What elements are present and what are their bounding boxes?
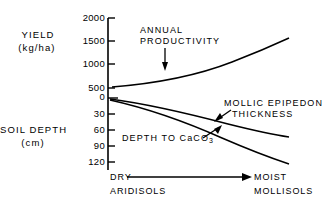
tick-label-yield-1500: 1500 — [64, 35, 105, 46]
tick-label-yield-1000: 1000 — [64, 58, 105, 69]
annotation-caco3-subscript: 3 — [209, 137, 214, 144]
annotation-mollic-epipedon-line1: MOLLIC EPIPEDON — [224, 98, 323, 109]
annotation-annual-productivity-line1: ANNUAL — [140, 25, 183, 36]
gradient-label-mollisols: MOLLISOLS — [254, 186, 313, 196]
tick-label-depth-0: 0 — [64, 91, 105, 102]
gradient-arrowhead — [242, 173, 252, 181]
tick-label-yield-2000: 2000 — [64, 12, 105, 23]
axis-title-yield: YIELD — [10, 29, 66, 40]
arrowhead-caco3 — [214, 125, 222, 134]
tick-label-depth-120: 120 — [64, 156, 105, 167]
annotation-caco3-text: DEPTH TO CaCO — [122, 133, 209, 143]
gradient-label-aridisols: ARIDISOLS — [110, 186, 166, 196]
annotation-depth-to-caco3: DEPTH TO CaCO3 — [122, 133, 214, 144]
annotation-mollic-epipedon-line2: THICKNESS — [232, 109, 293, 120]
axis-title-soil-depth-units: (cm) — [4, 137, 62, 148]
axis-title-yield-units: (kg/ha) — [6, 42, 68, 53]
tick-label-depth-30: 30 — [64, 108, 105, 119]
gradient-label-dry: DRY — [110, 172, 132, 182]
soil-gradient-figure: 2000 1500 1000 500 0 30 60 90 120 YIELD … — [0, 0, 329, 206]
arrowhead-productivity — [162, 62, 168, 71]
tick-label-depth-90: 90 — [64, 140, 105, 151]
gradient-label-moist: MOIST — [254, 172, 287, 182]
arrowhead-mollic — [214, 113, 223, 122]
annotation-annual-productivity-line2: PRODUCTIVITY — [140, 36, 220, 47]
tick-label-depth-60: 60 — [64, 124, 105, 135]
axis-title-soil-depth: SOIL DEPTH — [0, 124, 66, 135]
